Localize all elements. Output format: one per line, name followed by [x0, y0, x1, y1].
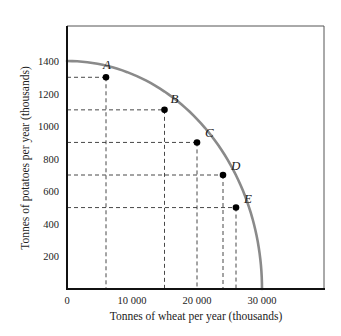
x-tick-label: 10 000 [118, 295, 147, 306]
production-possibility-chart: ABCDE 200400600800100012001400010 00020 … [0, 0, 341, 336]
point-a-marker [103, 74, 110, 81]
y-tick-label: 400 [43, 219, 59, 230]
dashed-reference-lines [67, 77, 236, 289]
y-axis-title: Tonnes of potatoes per year (thousands) [19, 66, 32, 250]
point-b-label: B [171, 91, 179, 106]
point-d-label: D [230, 158, 241, 173]
y-tick-label: 200 [43, 251, 59, 262]
y-tick-label: 1200 [38, 89, 59, 100]
x-axis-title: Tonnes of wheat per year (thousands) [110, 310, 283, 323]
tick-labels: 200400600800100012001400010 00020 00030 … [38, 56, 276, 306]
point-e-label: E [243, 191, 252, 206]
point-c-label: C [205, 125, 214, 140]
point-c-marker [194, 139, 201, 146]
y-tick-label: 1400 [38, 56, 59, 67]
point-b-marker [161, 107, 168, 114]
x-tick-label: 20 000 [183, 295, 212, 306]
y-tick-label: 1000 [38, 121, 59, 132]
data-points: ABCDE [102, 57, 252, 211]
y-tick-label: 800 [43, 154, 59, 165]
point-e-marker [233, 204, 240, 211]
x-tick-label: 0 [64, 295, 69, 306]
point-d-marker [220, 172, 227, 179]
point-a-label: A [102, 57, 111, 72]
x-tick-label: 30 000 [248, 295, 277, 306]
y-tick-label: 600 [43, 186, 59, 197]
